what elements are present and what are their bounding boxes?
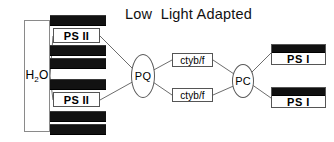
photosystem-ii-top-label: PS II xyxy=(64,30,89,42)
plastocyanin-label: PC xyxy=(235,75,251,87)
photosystem-i-bottom-antenna-bar xyxy=(272,88,325,96)
diagram-canvas: Low Light Adapted H2O PS II PS II PQ cty… xyxy=(0,0,334,142)
photosystem-i-top-antenna-bar xyxy=(272,45,325,53)
antenna-bar xyxy=(50,79,106,90)
photosystem-i-top-box: PS I xyxy=(271,44,326,65)
cytochrome-top-box: ctyb/f xyxy=(172,53,213,67)
plastoquinone-carrier: PQ xyxy=(131,54,155,98)
water-label: H2O xyxy=(25,68,48,84)
photosystem-ii-top-box: PS II xyxy=(53,28,100,43)
water-label-h: H xyxy=(25,68,34,82)
connector-pc-to-psi-bottom xyxy=(251,84,271,98)
plastoquinone-label: PQ xyxy=(135,70,151,82)
photosystem-i-bottom-label: PS I xyxy=(272,96,325,108)
water-source-box: H2O xyxy=(24,20,50,132)
water-label-o: O xyxy=(39,68,49,82)
cytochrome-bottom-label: ctyb/f xyxy=(180,90,205,101)
connector-pc-to-psi-top xyxy=(250,53,271,74)
cytochrome-top-label: ctyb/f xyxy=(180,55,205,66)
photosystem-ii-bottom-label: PS II xyxy=(64,94,89,106)
antenna-bar xyxy=(50,58,106,69)
photosystem-i-bottom-box: PS I xyxy=(271,87,326,108)
antenna-bar xyxy=(50,111,106,122)
antenna-bar xyxy=(50,45,106,56)
plastocyanin-carrier: PC xyxy=(232,64,254,98)
antenna-bar xyxy=(50,124,106,135)
photosystem-i-top-label: PS I xyxy=(272,53,325,65)
antenna-bar xyxy=(50,15,106,26)
diagram-title: Low Light Adapted xyxy=(125,6,252,22)
cytochrome-bottom-box: ctyb/f xyxy=(172,88,213,102)
photosystem-ii-bottom-box: PS II xyxy=(53,92,100,107)
